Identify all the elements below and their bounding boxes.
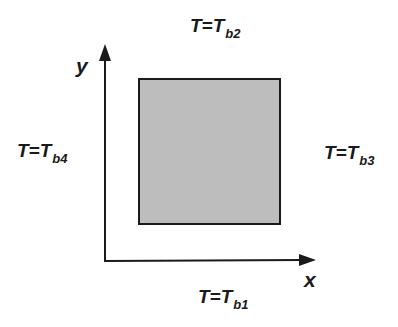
x-axis-line xyxy=(104,260,302,261)
x-axis-label: x xyxy=(304,268,316,292)
y-axis-label: y xyxy=(76,54,88,78)
boundary-label-left: T=Tb4 xyxy=(17,140,67,162)
boundary-label-right: T=Tb3 xyxy=(324,142,374,164)
boundary-label-bottom: T=Tb1 xyxy=(198,286,248,308)
domain-rectangle xyxy=(139,79,280,224)
y-axis-arrowhead xyxy=(99,44,111,61)
x-axis-arrowhead xyxy=(299,254,316,266)
boundary-label-top: T=Tb2 xyxy=(190,15,240,37)
